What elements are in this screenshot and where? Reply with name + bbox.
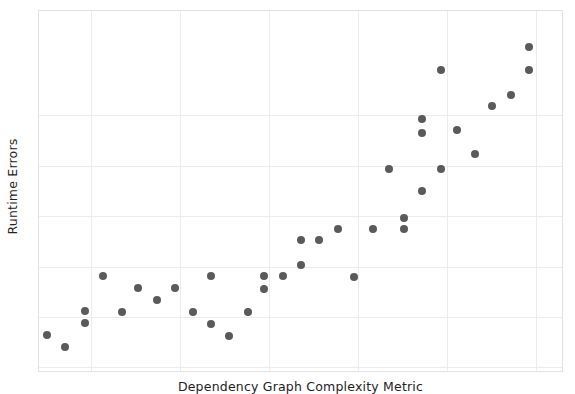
data-point	[279, 272, 287, 280]
data-point	[134, 284, 142, 292]
plot-area	[38, 10, 563, 372]
gridline-vertical	[180, 11, 181, 371]
data-point	[207, 320, 215, 328]
gridline-horizontal	[39, 166, 562, 167]
gridline-horizontal	[39, 367, 562, 368]
data-point	[418, 115, 426, 123]
y-axis-label: Runtime Errors	[0, 0, 26, 372]
data-point	[260, 285, 268, 293]
data-point	[418, 187, 426, 195]
data-point	[171, 284, 179, 292]
data-point	[99, 272, 107, 280]
data-point	[225, 332, 233, 340]
data-point	[81, 307, 89, 315]
data-point	[315, 236, 323, 244]
gridline-vertical	[536, 11, 537, 371]
gridline-horizontal	[39, 216, 562, 217]
data-point	[525, 43, 533, 51]
data-point	[244, 308, 252, 316]
data-point	[81, 319, 89, 327]
data-point	[400, 214, 408, 222]
data-point	[260, 272, 268, 280]
data-point	[385, 165, 393, 173]
data-point	[437, 66, 445, 74]
data-point	[43, 331, 51, 339]
data-point	[418, 129, 426, 137]
data-point	[118, 308, 126, 316]
gridline-horizontal	[39, 115, 562, 116]
data-point	[507, 91, 515, 99]
data-point	[471, 150, 479, 158]
gridline-vertical	[91, 11, 92, 371]
data-point	[400, 225, 408, 233]
data-point	[453, 126, 461, 134]
data-point	[297, 236, 305, 244]
y-axis-label-text: Runtime Errors	[6, 138, 21, 234]
data-point	[297, 261, 305, 269]
x-axis-label: Dependency Graph Complexity Metric	[38, 379, 563, 394]
gridline-vertical	[358, 11, 359, 371]
data-point	[369, 225, 377, 233]
data-point	[525, 66, 533, 74]
gridline-horizontal	[39, 317, 562, 318]
gridline-vertical	[269, 11, 270, 371]
data-point	[437, 165, 445, 173]
data-point	[488, 102, 496, 110]
data-point	[153, 296, 161, 304]
data-point	[207, 272, 215, 280]
data-point	[61, 343, 69, 351]
data-point	[189, 308, 197, 316]
gridline-vertical	[447, 11, 448, 371]
data-point	[334, 225, 342, 233]
